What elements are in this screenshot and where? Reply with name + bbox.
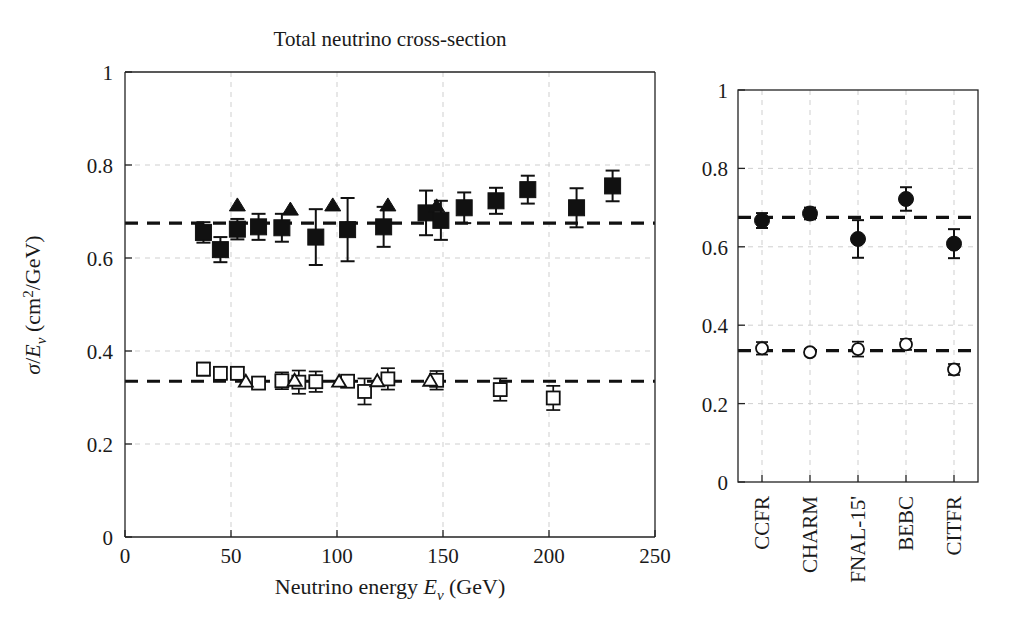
x-tick-label: 50 [221, 544, 242, 568]
marker-open-square [231, 367, 244, 380]
x-tick-label: 100 [321, 544, 353, 568]
marker-open-square [214, 367, 227, 380]
marker-filled-square [376, 219, 392, 235]
y-axis-label: σ/Eν (cm2/GeV) [20, 235, 49, 374]
x-tick-label: 0 [120, 544, 131, 568]
figure-container: Total neutrino cross-section 05010015020… [0, 0, 1018, 631]
category-label-citfr: CITFR [942, 496, 966, 556]
page-title: Total neutrino cross-section [274, 27, 507, 51]
y-axis-label-unit-end: /GeV) [20, 235, 45, 290]
y-tick-label: 1 [103, 61, 114, 85]
x-tick-label: 250 [639, 544, 671, 568]
marker-filled-square [605, 178, 621, 194]
y-tick-label: 1 [718, 79, 729, 103]
marker-filled-square [308, 229, 324, 245]
marker-filled-square [456, 200, 472, 216]
marker-filled-circle [899, 191, 914, 206]
x-axis-label-suffix: (GeV) [444, 574, 506, 599]
y-tick-label: 0.4 [87, 340, 114, 364]
marker-open-circle [804, 346, 816, 358]
y-tick-label: 0.4 [702, 314, 729, 338]
marker-filled-square [195, 224, 211, 240]
x-axis-label-symbol: E [422, 574, 437, 599]
marker-open-circle [852, 343, 864, 355]
marker-filled-circle [947, 236, 962, 251]
marker-open-square [275, 374, 288, 387]
marker-open-square [547, 391, 560, 404]
marker-open-square [494, 383, 507, 396]
y-tick-label: 0.6 [87, 247, 113, 271]
marker-filled-square [569, 200, 585, 216]
marker-filled-square [520, 182, 536, 198]
x-axis-label: Neutrino energy Eν (GeV) [275, 574, 506, 603]
y-tick-label: 0.6 [702, 236, 728, 260]
marker-filled-circle [755, 213, 770, 228]
x-axis-label-prefix: Neutrino energy [275, 574, 424, 599]
marker-filled-square [340, 222, 356, 238]
marker-filled-square [488, 193, 504, 209]
y-tick-label: 0 [103, 526, 114, 550]
y-tick-label: 0.8 [702, 157, 728, 181]
marker-filled-circle [851, 231, 866, 246]
neutrino-cross-section-figure: Total neutrino cross-section 05010015020… [0, 0, 1018, 631]
marker-filled-circle [803, 206, 818, 221]
marker-open-circle [948, 363, 960, 375]
marker-open-square [252, 377, 265, 390]
y-tick-label: 0.2 [702, 393, 728, 417]
y-tick-label: 0.2 [87, 433, 113, 457]
y-axis-label-unit: (cm [20, 298, 45, 338]
category-label-fnal-15: FNAL-15' [846, 496, 870, 583]
marker-open-square [197, 363, 210, 376]
x-tick-label: 150 [427, 544, 459, 568]
marker-filled-square [212, 242, 228, 258]
marker-filled-square [433, 212, 449, 228]
marker-open-circle [900, 338, 912, 350]
marker-open-square [309, 375, 322, 388]
category-label-bebc: BEBC [894, 496, 918, 551]
marker-open-circle [756, 342, 768, 354]
marker-filled-square [251, 219, 267, 235]
marker-filled-square [274, 220, 290, 236]
y-tick-label: 0.8 [87, 154, 113, 178]
category-label-charm: CHARM [798, 496, 822, 573]
x-tick-label: 200 [533, 544, 565, 568]
category-label-ccfr: CCFR [750, 496, 774, 550]
marker-filled-square [229, 221, 245, 237]
y-axis-label-sup: 2 [20, 290, 36, 298]
y-axis-label-E: E [20, 344, 45, 359]
y-tick-label: 0 [718, 471, 729, 495]
